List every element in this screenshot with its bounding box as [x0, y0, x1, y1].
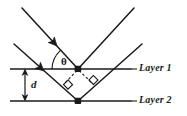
layer-1-label: Layer 1 — [139, 62, 172, 73]
right-angle-mark-icon-left — [64, 80, 73, 89]
reflected-ray-upper — [78, 8, 134, 69]
theta-angle-label: θ — [61, 55, 67, 67]
scatter-point-icon-top — [75, 66, 82, 72]
reflected-ray-lower — [78, 44, 142, 101]
d-spacing-label: d — [31, 78, 37, 90]
right-angle-mark-icon-right — [89, 75, 98, 84]
layer-2-label: Layer 2 — [139, 94, 172, 105]
scatter-point-icon-bottom — [75, 98, 82, 104]
bragg-diffraction-figure: Layer 1 Layer 2 θ d — [0, 0, 187, 116]
incident-ray-upper — [22, 8, 78, 69]
angle-arc-icon — [52, 50, 61, 69]
